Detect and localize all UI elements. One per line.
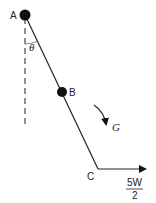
torque-arrow [94,105,106,124]
torque-label: G [112,121,120,133]
label-a: A [10,10,17,21]
label-b: B [69,87,76,98]
pendulum-diagram: A B C θ G 5W 2 [0,0,156,203]
mass-point-b [57,87,67,97]
force-numerator: 5W [127,177,143,188]
force-denominator: 2 [132,190,138,201]
label-c: C [87,171,94,182]
angle-label: θ [29,41,35,53]
pivot-point-a [20,10,31,21]
